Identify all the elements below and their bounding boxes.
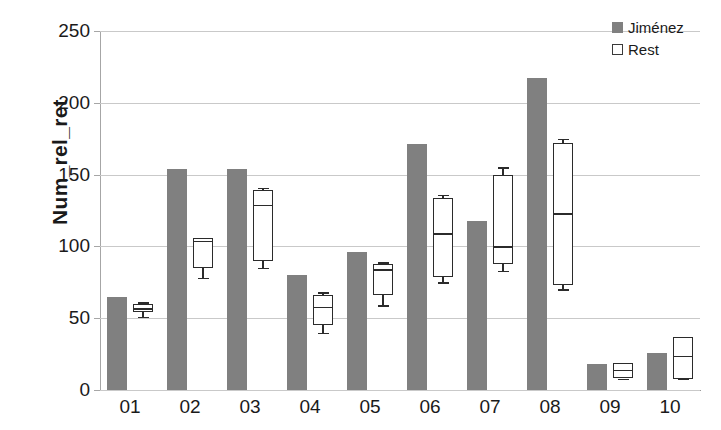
boxplot-rest-09 — [613, 31, 633, 390]
legend-item-rest: Rest — [612, 40, 684, 59]
gridline — [100, 31, 700, 32]
box-iqr — [193, 238, 213, 268]
boxplot-rest-05 — [373, 31, 393, 390]
x-tick-label-09: 09 — [580, 396, 640, 418]
x-tick-label-03: 03 — [220, 396, 280, 418]
x-tick-label-01: 01 — [100, 396, 160, 418]
bar-jimenez-10 — [647, 353, 667, 390]
whisker-lower — [502, 264, 504, 271]
legend-label: Jiménez — [628, 18, 684, 37]
whisker-cap-upper — [318, 292, 329, 294]
legend-swatch-icon — [612, 22, 623, 33]
gridline — [100, 390, 700, 391]
gridline — [100, 246, 700, 247]
whisker-cap-lower — [558, 289, 569, 291]
boxplot-rest-10 — [673, 31, 693, 390]
bar-jimenez-02 — [167, 169, 187, 390]
box-iqr — [253, 190, 273, 260]
x-tick-label-02: 02 — [160, 396, 220, 418]
x-tick-label-08: 08 — [520, 396, 580, 418]
whisker-cap-lower — [198, 278, 209, 280]
whisker-cap-lower — [138, 317, 149, 319]
whisker-cap-lower — [618, 379, 629, 381]
box-median — [553, 213, 573, 215]
whisker-cap-upper — [498, 167, 509, 169]
whisker-cap-upper — [258, 188, 269, 190]
box-median — [433, 233, 453, 235]
whisker-cap-lower — [498, 271, 509, 273]
boxplot-rest-08 — [553, 31, 573, 390]
box-iqr — [433, 198, 453, 277]
box-median — [313, 307, 333, 309]
boxplot-rest-03 — [253, 31, 273, 390]
y-tick-mark — [94, 103, 100, 104]
whisker-lower — [382, 295, 384, 305]
y-tick-label-250: 250 — [30, 20, 90, 42]
boxplot-rest-02 — [193, 31, 213, 390]
whisker-cap-upper — [438, 195, 449, 197]
whisker-cap-lower — [678, 379, 689, 381]
bar-jimenez-01 — [107, 297, 127, 390]
legend-label: Rest — [628, 40, 659, 59]
box-iqr — [673, 337, 693, 379]
whisker-cap-lower — [378, 305, 389, 307]
x-tick-label-05: 05 — [340, 396, 400, 418]
x-tick-label-10: 10 — [640, 396, 700, 418]
x-tick-label-06: 06 — [400, 396, 460, 418]
legend-swatch-icon — [612, 44, 623, 55]
y-tick-mark — [94, 175, 100, 176]
bar-jimenez-06 — [407, 144, 427, 390]
boxplot-rest-07 — [493, 31, 513, 390]
y-tick-label-200: 200 — [30, 92, 90, 114]
x-tick-label-04: 04 — [280, 396, 340, 418]
box-median — [613, 370, 633, 372]
whisker-cap-upper — [558, 139, 569, 141]
boxplot-rest-01 — [133, 31, 153, 390]
whisker-lower — [262, 261, 264, 268]
legend-item-jimenez: Jiménez — [612, 18, 684, 37]
gridline — [100, 318, 700, 319]
bar-jimenez-08 — [527, 78, 547, 390]
bar-jimenez-04 — [287, 275, 307, 390]
box-iqr — [373, 264, 393, 296]
y-tick-mark — [94, 246, 100, 247]
x-tick-label-07: 07 — [460, 396, 520, 418]
box-median — [673, 356, 693, 358]
box-median — [373, 269, 393, 271]
y-tick-mark — [94, 31, 100, 32]
y-tick-label-0: 0 — [30, 379, 90, 401]
y-tick-label-50: 50 — [30, 307, 90, 329]
whisker-lower — [322, 325, 324, 332]
y-tick-label-150: 150 — [30, 164, 90, 186]
bar-jimenez-07 — [467, 221, 487, 390]
y-tick-label-100: 100 — [30, 235, 90, 257]
box-median — [193, 241, 213, 243]
gridline — [100, 103, 700, 104]
whisker-cap-lower — [438, 282, 449, 284]
y-tick-mark — [94, 318, 100, 319]
boxplot-rest-06 — [433, 31, 453, 390]
plot-area — [100, 31, 700, 390]
bar-jimenez-03 — [227, 169, 247, 390]
whisker-lower — [202, 268, 204, 278]
chart-container: Num_rel_ret 050100150200250 010203040506… — [0, 0, 721, 430]
boxplot-rest-04 — [313, 31, 333, 390]
box-median — [133, 308, 153, 310]
bar-jimenez-09 — [587, 364, 607, 390]
y-tick-mark — [94, 390, 100, 391]
box-median — [493, 246, 513, 248]
box-median — [253, 205, 273, 207]
bar-jimenez-05 — [347, 252, 367, 390]
box-iqr — [313, 295, 333, 325]
whisker-cap-lower — [258, 268, 269, 270]
legend: JiménezRest — [612, 18, 684, 62]
box-iqr — [493, 175, 513, 264]
gridline — [100, 175, 700, 176]
whisker-cap-lower — [318, 333, 329, 335]
